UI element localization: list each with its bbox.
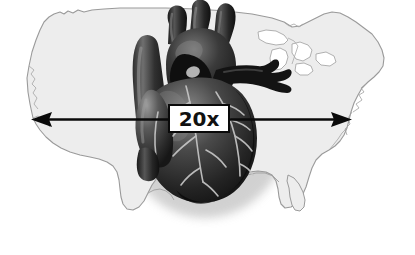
arrowhead-left-icon [31, 112, 52, 127]
scale-label-box: 20x [168, 104, 230, 133]
arrowhead-right-icon [331, 112, 352, 127]
figure-canvas: 20x [0, 0, 415, 255]
scale-label-text: 20x [179, 109, 220, 129]
